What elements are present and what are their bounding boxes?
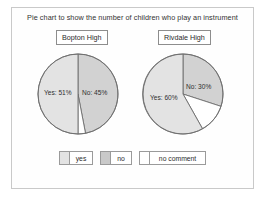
slice-label-rivdale-yes: Yes: 60%: [150, 94, 178, 101]
slice-label-rivdale-no: No: 30%: [186, 83, 211, 90]
slice-label-bopton-no: No: 45%: [82, 89, 107, 96]
legend-swatch-yes: [60, 152, 70, 164]
legend-label-no: no: [111, 152, 131, 164]
legend-label-no-comment: no comment: [150, 152, 205, 164]
legend-item-no: no: [100, 151, 132, 165]
pie-chart-bopton: [36, 52, 120, 140]
school-label-rivdale: Rivdale High: [158, 30, 211, 45]
legend-swatch-no: [101, 152, 111, 164]
pie-chart-worksheet: Pie chart to show the number of children…: [0, 0, 265, 198]
legend: yes no no comment: [0, 151, 265, 165]
legend-item-no-comment: no comment: [139, 151, 206, 165]
school-label-bopton: Bopton High: [56, 30, 108, 45]
slice-label-bopton-yes: Yes: 51%: [44, 89, 72, 96]
page-title: Pie chart to show the number of children…: [0, 13, 265, 22]
legend-label-yes: yes: [70, 152, 93, 164]
legend-swatch-no-comment: [140, 152, 150, 164]
legend-item-yes: yes: [59, 151, 94, 165]
